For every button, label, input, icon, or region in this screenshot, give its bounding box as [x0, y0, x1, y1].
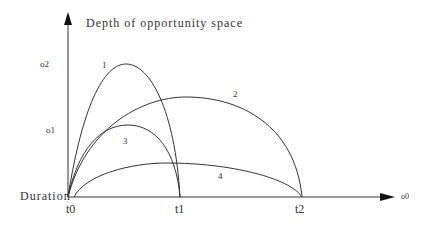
y-axis-arrow-icon — [64, 12, 72, 25]
x-axis-end-label: o0 — [401, 193, 409, 201]
curve-2-label: 2 — [233, 90, 238, 99]
curve-4 — [74, 163, 302, 197]
y-tick-o2: o2 — [40, 60, 49, 69]
curve-2 — [68, 97, 302, 197]
curve-4-label: 4 — [218, 172, 223, 181]
y-tick-o1: o1 — [46, 126, 55, 135]
x-tick-t0: t0 — [66, 203, 75, 215]
y-axis-label: Depth of opportunity space — [86, 17, 243, 29]
curve-1 — [68, 64, 180, 197]
curve-1-label: 1 — [102, 61, 107, 70]
x-tick-t2: t2 — [295, 203, 304, 215]
opportunity-space-diagram: Depth of opportunity space o2 o1 Duratio… — [0, 0, 429, 225]
x-axis-arrow-icon — [380, 193, 395, 201]
x-tick-t1: t1 — [175, 203, 184, 215]
x-origin-label: Duration — [20, 190, 71, 202]
curve-3-label: 3 — [123, 137, 128, 146]
